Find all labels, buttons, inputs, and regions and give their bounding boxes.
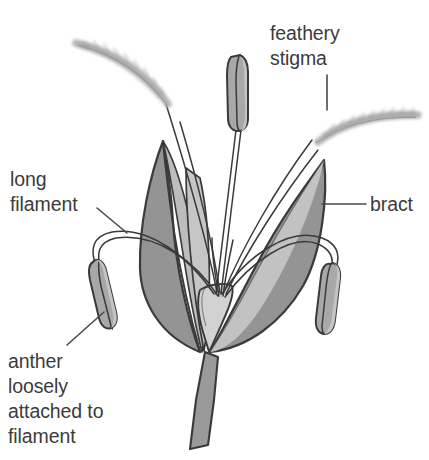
left-stigma	[76, 41, 168, 105]
label-bract: bract	[370, 192, 413, 217]
right-stigma	[316, 108, 418, 143]
label-anther-loosely-attached: anther loosely attached to filament	[8, 349, 103, 449]
left-anther	[89, 260, 117, 329]
center-anther	[227, 55, 248, 131]
label-feathery-stigma: feathery stigma	[270, 21, 340, 71]
stem	[190, 352, 218, 449]
label-long-filament: long filament	[10, 167, 77, 217]
leader-long-filament	[97, 208, 127, 233]
right-anther	[316, 263, 340, 334]
grass-flower-diagram: feathery stigma long filament bract anth…	[0, 0, 429, 460]
leader-anther	[67, 312, 104, 345]
